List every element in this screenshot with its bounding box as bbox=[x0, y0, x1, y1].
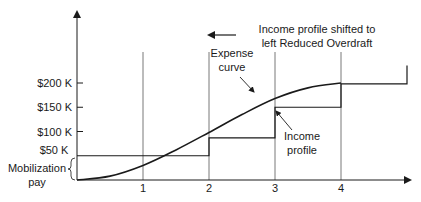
chart: $50 K$100 K$150 K$200 K 1234 Expense cur… bbox=[0, 0, 421, 202]
shift-label-line1: Income profile shifted to bbox=[259, 23, 376, 35]
income-label-line2: profile bbox=[287, 144, 317, 156]
y-ticks: $50 K$100 K$150 K$200 K bbox=[37, 77, 83, 156]
annotation-expense-curve: Expense curve bbox=[211, 47, 254, 92]
y-tick-label-50: $50 K bbox=[40, 144, 69, 156]
x-tick-label-2: 2 bbox=[206, 182, 212, 194]
mobilization-label-line2: pay bbox=[28, 176, 46, 188]
y-tick-label-100: $100 K bbox=[37, 126, 73, 138]
expense-label-line2: curve bbox=[219, 61, 246, 73]
income-label-line1: Income bbox=[284, 130, 320, 142]
x-ticks: 1234 bbox=[140, 182, 344, 194]
x-tick-label-1: 1 bbox=[140, 182, 146, 194]
annotation-mobilization-pay: Mobilization pay bbox=[8, 158, 75, 188]
annotation-shift: Income profile shifted to left Reduced O… bbox=[209, 23, 375, 49]
mobilization-brace bbox=[68, 158, 75, 180]
shift-label-line2: left Reduced Overdraft bbox=[262, 37, 373, 49]
expense-label-line1: Expense bbox=[211, 47, 254, 59]
expense-pointer-arrow bbox=[240, 77, 254, 92]
annotation-income-profile: Income profile bbox=[276, 111, 320, 156]
x-tick-label-3: 3 bbox=[272, 182, 278, 194]
x-tick-label-4: 4 bbox=[338, 182, 344, 194]
y-tick-label-150: $150 K bbox=[37, 101, 73, 113]
income-pointer-arrow bbox=[276, 111, 292, 130]
mobilization-label-line1: Mobilization bbox=[8, 162, 66, 174]
series bbox=[77, 66, 407, 180]
y-tick-label-200: $200 K bbox=[37, 77, 73, 89]
